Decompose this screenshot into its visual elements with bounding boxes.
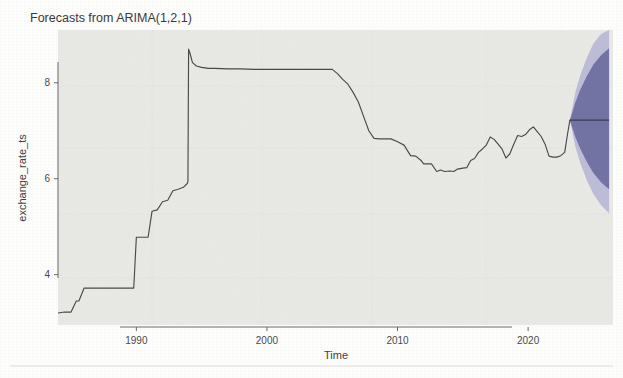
y-tick-label: 4 (44, 269, 50, 280)
y-tick-label: 8 (44, 77, 50, 88)
x-tick-label: 2020 (517, 335, 540, 346)
y-tick-label: 6 (44, 173, 50, 184)
page-title: Forecasts from ARIMA(1,2,1) (30, 11, 192, 25)
x-tick-label: 2010 (386, 335, 409, 346)
figure-page: Forecasts from ARIMA(1,2,1) 468 exchange… (0, 0, 623, 378)
forecast-chart: Forecasts from ARIMA(1,2,1) 468 exchange… (0, 0, 623, 378)
plot-panel (58, 30, 613, 325)
x-tick-group: 1990200020102020 (125, 327, 539, 346)
y-axis: 468 exchange_rate_ts (16, 62, 58, 280)
y-axis-title: exchange_rate_ts (16, 134, 28, 222)
x-tick-label: 2000 (256, 335, 279, 346)
x-axis: 1990200020102020 Time (120, 327, 540, 361)
x-tick-label: 1990 (125, 335, 148, 346)
x-axis-title: Time (324, 349, 348, 361)
y-tick-group: 468 (44, 77, 58, 280)
